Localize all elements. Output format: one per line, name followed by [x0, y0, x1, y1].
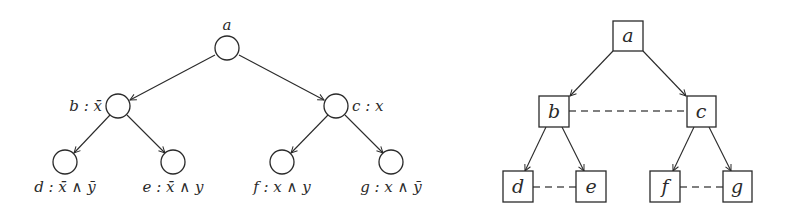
left-node-e — [161, 150, 185, 174]
right-label-c: c — [696, 100, 707, 122]
edge-b-d — [74, 115, 110, 153]
left-node-g — [379, 150, 403, 174]
edge-b-e — [127, 115, 165, 153]
left-node-d — [53, 150, 77, 174]
left-tree: a b : x̄ c : x d : x̄ ∧ ȳ e : x̄ ∧ y f :… — [34, 16, 422, 196]
right-label-d: d — [512, 175, 524, 197]
edge-c-g — [709, 127, 731, 171]
right-label-e: e — [585, 175, 596, 197]
left-label-d: d : x̄ ∧ ȳ — [34, 178, 96, 196]
right-tree: a b c d e f g — [503, 21, 752, 202]
edge-a-b — [130, 55, 215, 100]
edge-a-c — [643, 51, 686, 96]
left-node-a — [215, 36, 239, 60]
right-label-b: b — [548, 100, 560, 122]
diagram-canvas: a b : x̄ c : x d : x̄ ∧ ȳ e : x̄ ∧ y f :… — [0, 0, 790, 217]
left-label-b: b : x̄ — [69, 97, 102, 115]
left-label-c: c : x — [352, 97, 384, 115]
left-label-a: a — [223, 16, 232, 34]
left-label-g: g : x ∧ ȳ — [360, 178, 422, 196]
edge-c-g — [345, 115, 383, 153]
edge-b-e — [562, 127, 584, 171]
edge-c-f — [291, 115, 328, 153]
right-label-g: g — [731, 175, 743, 197]
edge-a-b — [570, 51, 613, 96]
edge-a-c — [239, 55, 324, 100]
left-node-c — [324, 94, 348, 118]
left-node-b — [106, 94, 130, 118]
left-label-f: f : x ∧ y — [252, 178, 311, 196]
edge-b-d — [525, 127, 546, 171]
left-node-f — [270, 150, 294, 174]
right-label-a: a — [622, 24, 633, 46]
edge-c-f — [673, 127, 694, 171]
left-label-e: e : x̄ ∧ y — [143, 178, 204, 196]
